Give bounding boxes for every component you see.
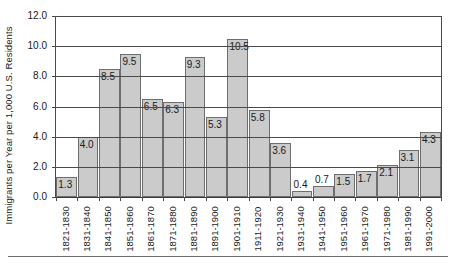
x-axis-tick-label: 1881-1890 <box>187 201 201 257</box>
x-axis-tick-label: 1821-1830 <box>59 201 73 257</box>
y-axis-tick-mark <box>52 167 56 168</box>
x-axis-tick-label: 1831-1840 <box>80 201 94 257</box>
gridline <box>56 137 441 138</box>
bar <box>99 69 120 197</box>
y-axis-title-text: Immigrants per Year per 1,000 U.S. Resid… <box>3 26 14 224</box>
bar-value-label: 3.6 <box>272 145 286 156</box>
bar <box>227 39 248 197</box>
y-axis-tick-label: 2.0 <box>33 162 47 172</box>
bar-value-label: 0.7 <box>315 174 329 185</box>
bar-value-label: 5.8 <box>251 112 265 123</box>
immigration-rate-bar-chart: Immigrants per Year per 1,000 U.S. Resid… <box>0 0 456 270</box>
gridline <box>56 76 441 77</box>
x-axis-tick-label: 1961-1970 <box>358 201 372 257</box>
y-axis-tick-label: 0.0 <box>33 192 47 202</box>
bar-value-label: 4.0 <box>80 139 94 150</box>
bar <box>142 99 163 197</box>
bar-value-label: 9.5 <box>122 56 136 67</box>
x-axis-tick-label: 1991-2000 <box>422 201 436 257</box>
y-axis-tick-labels: 0.02.04.06.08.010.012.0 <box>16 0 50 270</box>
gridline <box>56 107 441 108</box>
bar-value-label: 2.1 <box>379 167 393 178</box>
x-axis-tick-label: 1941-1950 <box>315 201 329 257</box>
x-axis-tick-label: 1871-1880 <box>166 201 180 257</box>
bar-value-label: 1.3 <box>58 179 72 190</box>
gridline <box>56 16 441 17</box>
y-axis-tick-label: 4.0 <box>33 132 47 142</box>
x-axis-tick-label: 1841-1850 <box>101 201 115 257</box>
bar-value-label: 9.3 <box>187 59 201 70</box>
y-axis-tick-label: 8.0 <box>33 71 47 81</box>
x-axis-tick-labels: 1821-18301831-18401841-18501851-18601861… <box>55 201 440 257</box>
bar-value-label: 0.4 <box>294 179 308 190</box>
x-axis-tick-label: 1911-1920 <box>251 201 265 257</box>
y-axis-tick-mark <box>52 137 56 138</box>
x-axis-tick-mark <box>441 197 442 201</box>
bar <box>249 110 270 197</box>
bar-value-label: 3.1 <box>401 152 415 163</box>
x-axis-tick-label: 1851-1860 <box>123 201 137 257</box>
bar-value-label: 5.3 <box>208 119 222 130</box>
bar <box>313 186 334 197</box>
x-axis-tick-label: 1931-1940 <box>294 201 308 257</box>
gridline <box>56 167 441 168</box>
y-axis-tick-label: 10.0 <box>28 41 47 51</box>
bar <box>163 102 184 197</box>
x-axis-tick-label: 1951-1960 <box>337 201 351 257</box>
x-axis-tick-label: 1921-1930 <box>273 201 287 257</box>
x-axis-tick-label: 1861-1870 <box>144 201 158 257</box>
y-axis-tick-label: 12.0 <box>28 11 47 21</box>
x-axis-tick-label: 1981-1990 <box>401 201 415 257</box>
y-axis-tick-label: 6.0 <box>33 102 47 112</box>
x-axis-tick-label: 1971-1980 <box>380 201 394 257</box>
bar <box>185 57 206 197</box>
x-axis-tick-label: 1901-1910 <box>230 201 244 257</box>
bar <box>120 54 141 197</box>
bar-value-label: 1.5 <box>336 176 350 187</box>
y-axis-tick-mark <box>52 16 56 17</box>
footer-divider <box>8 256 448 257</box>
gridline <box>56 46 441 47</box>
plot-area: 1.34.08.59.56.56.39.35.310.55.83.60.40.7… <box>55 16 442 197</box>
y-axis-title: Immigrants per Year per 1,000 U.S. Resid… <box>0 0 16 250</box>
bar-value-label: 1.7 <box>358 173 372 184</box>
y-axis-tick-mark <box>52 76 56 77</box>
y-axis-tick-mark <box>52 107 56 108</box>
x-axis-tick-label: 1891-1900 <box>208 201 222 257</box>
y-axis-tick-mark <box>52 46 56 47</box>
